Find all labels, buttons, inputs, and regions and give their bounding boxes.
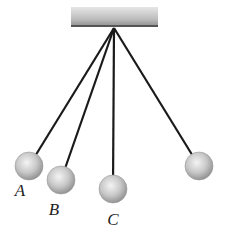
string-c <box>113 28 114 189</box>
label-c: C <box>107 211 118 228</box>
label-a: A <box>15 182 25 199</box>
ball-b <box>47 166 75 194</box>
ball-a <box>15 152 43 180</box>
strings <box>29 28 199 189</box>
string-a <box>29 28 114 166</box>
ball-d <box>185 152 213 180</box>
label-b: B <box>49 201 59 218</box>
pendulum-diagram: ABC <box>0 0 228 229</box>
ball-c <box>99 175 127 203</box>
string-d <box>114 28 199 166</box>
diagram-svg <box>0 0 228 229</box>
ceiling-support <box>71 7 158 27</box>
string-b <box>61 28 114 180</box>
